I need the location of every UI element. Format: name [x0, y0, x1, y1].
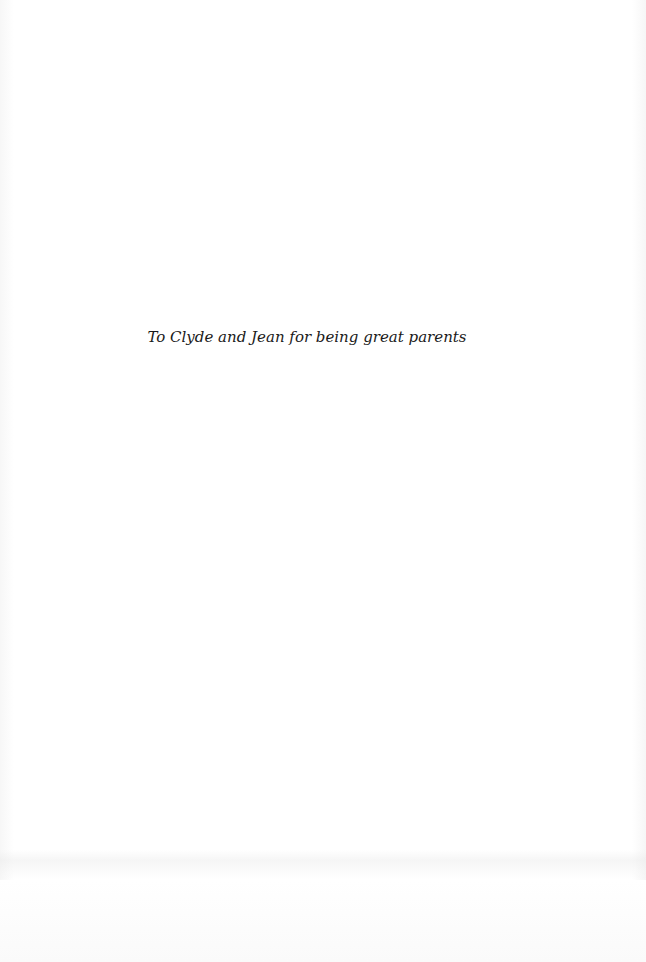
scan-bottom-margin [0, 880, 646, 962]
scan-shadow-band [0, 850, 646, 880]
book-page: To Clyde and Jean for being great parent… [0, 0, 646, 962]
dedication-text: To Clyde and Jean for being great parent… [0, 328, 614, 346]
